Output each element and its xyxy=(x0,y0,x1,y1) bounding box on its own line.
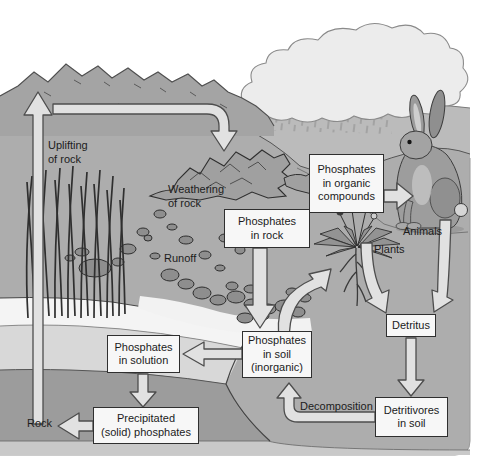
label-decomposition: Decomposition xyxy=(300,400,373,414)
label-plants: Plants xyxy=(374,243,405,257)
label-runoff: Runoff xyxy=(164,252,196,266)
box-phosphates-in-rock: Phosphates in rock xyxy=(224,209,310,248)
box-detritus: Detritus xyxy=(386,314,436,337)
label-uplifting-of-rock: Uplifting of rock xyxy=(48,139,88,167)
box-phosphates-in-solution: Phosphates in solution xyxy=(107,335,180,373)
box-phosphates-in-soil: Phosphates in soil (inorganic) xyxy=(242,331,312,378)
label-rock: Rock xyxy=(27,417,52,431)
label-weathering-of-rock: Weathering of rock xyxy=(168,183,224,211)
box-phosphates-in-organic: Phosphates in organic compounds xyxy=(309,154,384,213)
label-animals: Animals xyxy=(403,225,442,239)
phosphorus-cycle-diagram: Uplifting of rock Weathering of rock Run… xyxy=(0,0,477,463)
box-precipitated-phosphates: Precipitated (solid) phosphates xyxy=(93,407,199,444)
box-detritivores-in-soil: Detritivores in soil xyxy=(375,397,448,437)
